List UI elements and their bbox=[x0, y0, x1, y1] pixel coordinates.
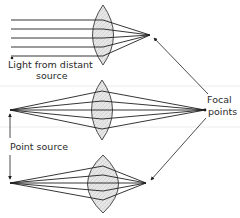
panel-point-source-thick bbox=[10, 155, 146, 213]
diagram-canvas bbox=[0, 0, 240, 218]
label-focal: Focal bbox=[207, 94, 232, 105]
label-point-source: Point source bbox=[10, 141, 68, 152]
label-light-from-distant: Light from distant bbox=[8, 59, 93, 70]
panel-parallel-rays bbox=[11, 5, 150, 65]
panel-point-source-thin bbox=[10, 80, 206, 140]
strongly-converging-rays bbox=[10, 166, 146, 200]
focal-point-marker-icon bbox=[204, 109, 207, 112]
parallel-rays bbox=[11, 20, 150, 56]
label-points: points bbox=[208, 106, 237, 117]
label-source: source bbox=[36, 70, 68, 81]
lens-focusing-diagram: Light from distant source Focal points P… bbox=[0, 0, 240, 218]
lens-bottom bbox=[88, 155, 119, 213]
